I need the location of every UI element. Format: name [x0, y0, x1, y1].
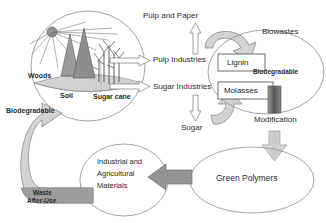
label-biodegradable-right: Biodegradable — [253, 68, 298, 76]
waste-after-use-arrow — [21, 103, 93, 203]
diagram-canvas: Woods Soil Sugar cane Biodegradable Pulp… — [0, 0, 326, 223]
label-pulp-and-paper: Pulp and Paper — [143, 12, 198, 20]
label-waste-after-use-line1: Waste — [33, 189, 52, 197]
label-sugar: Sugar — [181, 124, 202, 132]
ecosystem-bubble — [30, 11, 145, 121]
label-sugar-industries: Sugar Industries — [153, 83, 211, 91]
label-lignin: Lignin — [227, 58, 248, 67]
label-biowastes: Biowastes — [262, 28, 298, 36]
label-modification: Modification — [254, 116, 297, 124]
label-soil: Soil — [60, 92, 73, 100]
label-biodegradable-left: Biodegradable — [6, 107, 55, 115]
label-pulp-industries: Pulp Industries — [153, 56, 206, 64]
label-molasses: Molasses — [224, 86, 258, 95]
label-industrial-materials-line2: Agricultural — [97, 170, 135, 178]
arrow-polymers-to-materials — [148, 164, 192, 190]
arrow-sugar-industries-to-sugar — [190, 95, 201, 121]
label-sugar-cane: Sugar cane — [93, 93, 131, 101]
label-green-polymers: Green Polymers — [216, 174, 277, 182]
label-woods: Woods — [28, 72, 51, 80]
arrow-pulp-to-paper — [190, 23, 201, 54]
label-industrial-materials-line3: Materials — [97, 182, 127, 190]
label-industrial-materials-line1: Industrial and — [97, 158, 142, 166]
label-waste-after-use-line2: After-Use — [27, 197, 56, 205]
